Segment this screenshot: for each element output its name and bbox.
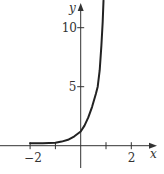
y-axis-arrow-icon (78, 3, 84, 11)
x-axis-label: x (150, 147, 157, 161)
x-tick-label: −2 (24, 151, 42, 165)
y-tick-label: 5 (69, 80, 77, 94)
exponential-chart: −22 510 x y (0, 0, 164, 174)
x-tick-label: 2 (128, 151, 136, 165)
y-tick-label: 10 (62, 21, 77, 35)
y-axis-label: y (68, 1, 76, 15)
